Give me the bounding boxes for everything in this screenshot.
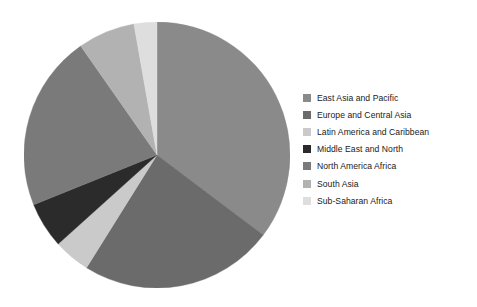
legend-item[interactable]: South Asia xyxy=(303,175,471,192)
legend-swatch-icon xyxy=(303,128,311,136)
legend-swatch-icon xyxy=(303,162,311,170)
legend-item[interactable]: North America Africa xyxy=(303,158,471,175)
legend-item[interactable]: Middle East and North xyxy=(303,141,471,158)
legend-item-label: South Asia xyxy=(317,179,359,189)
chart-legend: East Asia and PacificEurope and Central … xyxy=(303,89,471,209)
legend-swatch-icon xyxy=(303,94,311,102)
legend-item-label: Latin America and Caribbean xyxy=(317,127,429,137)
pie-chart-figure: East Asia and PacificEurope and Central … xyxy=(0,0,477,307)
legend-swatch-icon xyxy=(303,180,311,188)
pie-slice-group xyxy=(24,22,290,288)
legend-item[interactable]: East Asia and Pacific xyxy=(303,89,471,106)
legend-swatch-icon xyxy=(303,197,311,205)
legend-swatch-icon xyxy=(303,111,311,119)
legend-swatch-icon xyxy=(303,145,311,153)
legend-item[interactable]: Latin America and Caribbean xyxy=(303,123,471,140)
legend-item[interactable]: Sub-Saharan Africa xyxy=(303,192,471,209)
legend-item-label: Europe and Central Asia xyxy=(317,110,411,120)
legend-item-label: North America Africa xyxy=(317,161,396,171)
pie-chart-plot-area xyxy=(24,22,290,288)
legend-item[interactable]: Europe and Central Asia xyxy=(303,106,471,123)
pie-chart-svg xyxy=(24,22,290,288)
legend-item-label: Middle East and North xyxy=(317,144,403,154)
legend-item-label: Sub-Saharan Africa xyxy=(317,196,392,206)
legend-item-label: East Asia and Pacific xyxy=(317,93,398,103)
